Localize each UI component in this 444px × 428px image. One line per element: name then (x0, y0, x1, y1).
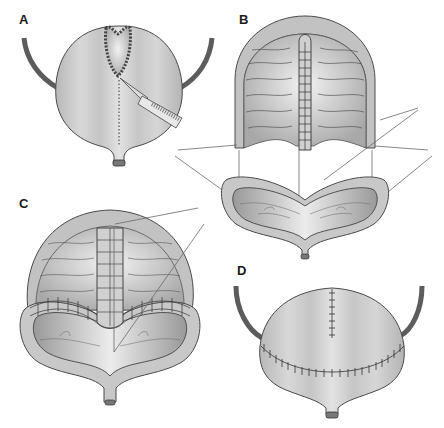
midline-strip-c (97, 228, 123, 328)
panel-c (20, 208, 204, 405)
ureter-left (24, 38, 58, 88)
midline-strip-b (299, 35, 311, 151)
panel-a (24, 26, 212, 166)
ureter-right (180, 38, 212, 88)
panel-b (175, 16, 432, 259)
panel-d (236, 286, 422, 418)
posterior-cup-b (221, 177, 388, 259)
ureter-right-d (400, 286, 422, 336)
ureter-left-d (236, 286, 262, 338)
surgical-figure (0, 0, 444, 428)
